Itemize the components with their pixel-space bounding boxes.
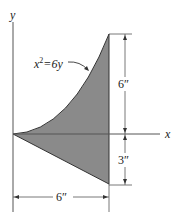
arrow-icon (123, 35, 127, 40)
width-label: 6″ (56, 190, 67, 204)
x-axis-label: x (164, 127, 171, 141)
arrow-icon (123, 128, 127, 133)
lower-height-label: 3″ (118, 153, 129, 167)
arrow-icon (103, 195, 108, 199)
upper-height-label: 6″ (118, 77, 129, 91)
curve-equation-label: x2=6y (33, 56, 63, 71)
arrow-icon (123, 179, 127, 184)
arrow-icon (123, 135, 127, 140)
area-diagram: y x x2=6y 6″ 3″ 6″ (0, 0, 181, 219)
y-axis-label: y (9, 8, 16, 22)
arrow-icon (14, 195, 19, 199)
